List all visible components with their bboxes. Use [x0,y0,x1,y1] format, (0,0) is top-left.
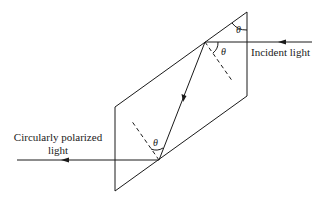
output-label-line2: light [48,144,68,156]
upper-angle-arc [213,42,218,53]
upper-normal [205,42,233,82]
lower-angle-arc [151,148,163,150]
lower-angle-label: θ [153,137,158,148]
rhomb-outline [115,12,247,191]
incident-light-label: Incident light [251,46,310,58]
incident-arrowhead [278,40,286,45]
upper-angle-label: θ [221,46,226,57]
output-label-line1: Circularly polarized [14,131,103,143]
fresnel-rhomb-diagram: θ θ θ Incident light Circularly polarize… [0,0,329,199]
output-arrowhead [61,158,69,163]
apex-angle-label: θ [236,24,241,35]
